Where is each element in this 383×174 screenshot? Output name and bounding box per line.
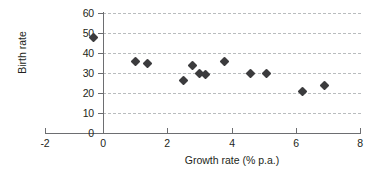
data-point	[320, 80, 330, 90]
y-axis-line	[103, 12, 104, 134]
data-point	[201, 69, 211, 79]
gridline-60	[103, 13, 361, 14]
y-tick-50	[98, 33, 103, 34]
y-tick-label-0: 0	[54, 128, 94, 139]
x-tick-8	[360, 128, 361, 133]
x-tick-2	[167, 128, 168, 133]
gridline-50	[103, 33, 361, 34]
x-tick-label-6: 6	[276, 138, 316, 149]
x-tick-0	[103, 128, 104, 133]
data-point	[220, 56, 230, 66]
data-point	[297, 86, 307, 96]
x-tick-label-8: 8	[340, 138, 380, 149]
y-axis-title: Birth rate	[17, 13, 28, 93]
data-point	[178, 75, 188, 85]
y-tick-0	[98, 133, 103, 134]
x-tick-6	[296, 128, 297, 133]
x-tick-minus2	[45, 128, 46, 133]
y-tick-30	[98, 73, 103, 74]
gridline-40	[103, 53, 361, 54]
gridline-10	[103, 113, 361, 114]
data-point	[262, 68, 272, 78]
scatter-chart: 60 50 40 30 20 10 0 -2 0 2 4 6 8 Growth …	[0, 0, 383, 174]
y-tick-label-40: 40	[54, 48, 94, 59]
y-tick-label-10: 10	[54, 108, 94, 119]
data-point	[143, 58, 153, 68]
y-tick-label-30: 30	[54, 68, 94, 79]
x-tick-label-minus2: -2	[25, 138, 65, 149]
y-tick-40	[98, 53, 103, 54]
x-tick-label-2: 2	[147, 138, 187, 149]
y-tick-60	[98, 13, 103, 14]
data-point	[246, 68, 256, 78]
x-tick-4	[232, 128, 233, 133]
data-point	[188, 60, 198, 70]
y-tick-20	[98, 93, 103, 94]
x-tick-label-4: 4	[212, 138, 252, 149]
gridline-20	[103, 93, 361, 94]
data-point	[130, 56, 140, 66]
y-tick-10	[98, 113, 103, 114]
y-tick-label-20: 20	[54, 88, 94, 99]
y-tick-label-60: 60	[54, 8, 94, 19]
x-tick-label-0: 0	[83, 138, 123, 149]
gridline-30	[103, 73, 361, 74]
x-axis-title: Growth rate (% p.a.)	[103, 155, 361, 166]
